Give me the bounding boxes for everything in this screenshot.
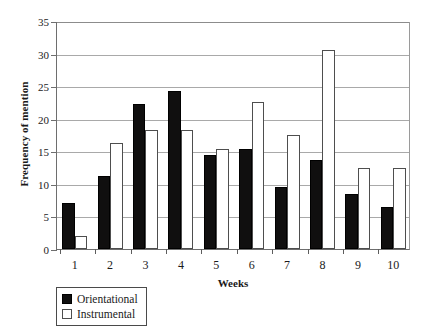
x-tick-label-week-5: 5: [201, 258, 231, 273]
bar-instrumental-week-2: [110, 143, 123, 249]
y-tick-label-20: 20: [23, 115, 49, 125]
bar-instrumental-week-4: [181, 130, 194, 249]
x-tick-week-4: [166, 249, 167, 254]
bar-orientational-week-7: [275, 187, 288, 249]
bar-orientational-week-5: [204, 155, 217, 249]
y-tick-label-30: 30: [23, 50, 49, 60]
x-tick-week-7: [272, 249, 273, 254]
x-tick-label-week-4: 4: [166, 258, 196, 273]
x-tick-label-week-7: 7: [272, 258, 302, 273]
bar-instrumental-week-8: [322, 50, 335, 249]
x-tick-week-1: [60, 249, 61, 254]
legend-item-orientational: Orientational: [62, 291, 138, 306]
bar-group-week-7: [269, 22, 304, 249]
bar-instrumental-week-10: [393, 168, 406, 249]
bar-instrumental-week-7: [287, 135, 300, 249]
bar-instrumental-week-9: [358, 168, 371, 249]
bar-series-container: [57, 22, 409, 249]
bar-orientational-week-8: [310, 160, 323, 249]
bar-orientational-week-4: [168, 91, 181, 249]
bar-group-week-8: [305, 22, 340, 249]
plot-area: 05101520253035 12345678910: [56, 22, 410, 250]
legend-label-instrumental: Instrumental: [77, 308, 135, 320]
legend-swatch-instrumental-icon: [62, 309, 72, 319]
bar-group-week-6: [234, 22, 269, 249]
bar-group-week-5: [199, 22, 234, 249]
bar-group-week-4: [163, 22, 198, 249]
bar-group-week-9: [340, 22, 375, 249]
bar-orientational-week-3: [133, 104, 146, 249]
y-tick-label-5: 5: [23, 212, 49, 222]
x-tick-label-week-2: 2: [95, 258, 125, 273]
y-tick-label-10: 10: [23, 180, 49, 190]
x-tick-week-6: [237, 249, 238, 254]
x-tick-week-2: [95, 249, 96, 254]
bar-group-week-3: [128, 22, 163, 249]
legend-swatch-orientational-icon: [62, 294, 72, 304]
x-tick-label-week-10: 10: [378, 258, 408, 273]
y-axis-title: Frequency of mention: [18, 44, 30, 224]
y-tick-label-25: 25: [23, 82, 49, 92]
bar-orientational-week-9: [345, 194, 358, 249]
x-tick-week-5: [201, 249, 202, 254]
x-tick-week-10: [378, 249, 379, 254]
x-tick-label-week-6: 6: [237, 258, 267, 273]
bar-instrumental-week-3: [145, 130, 158, 249]
x-tick-label-week-3: 3: [131, 258, 161, 273]
x-tick-week-8: [308, 249, 309, 254]
x-tick-label-week-8: 8: [308, 258, 338, 273]
bar-group-week-2: [92, 22, 127, 249]
bar-instrumental-week-1: [75, 236, 88, 249]
bar-group-week-10: [376, 22, 411, 249]
bar-orientational-week-2: [98, 176, 111, 249]
bar-instrumental-week-6: [252, 102, 265, 249]
y-tick-label-35: 35: [23, 17, 49, 27]
bar-chart-figure: Frequency of mention 05101520253035 1234…: [0, 0, 428, 332]
x-tick-week-9: [343, 249, 344, 254]
y-tick-label-0: 0: [23, 245, 49, 255]
bar-orientational-week-1: [62, 203, 75, 249]
y-tick-0: [51, 250, 57, 251]
bar-group-week-1: [57, 22, 92, 249]
legend-label-orientational: Orientational: [77, 293, 138, 305]
chart-legend: Orientational Instrumental: [56, 287, 147, 326]
bar-instrumental-week-5: [216, 149, 229, 249]
y-tick-label-15: 15: [23, 147, 49, 157]
legend-item-instrumental: Instrumental: [62, 306, 138, 321]
x-tick-week-3: [131, 249, 132, 254]
x-tick-label-week-1: 1: [60, 258, 90, 273]
bar-orientational-week-6: [239, 149, 252, 249]
bar-orientational-week-10: [381, 207, 394, 249]
x-tick-label-week-9: 9: [343, 258, 373, 273]
